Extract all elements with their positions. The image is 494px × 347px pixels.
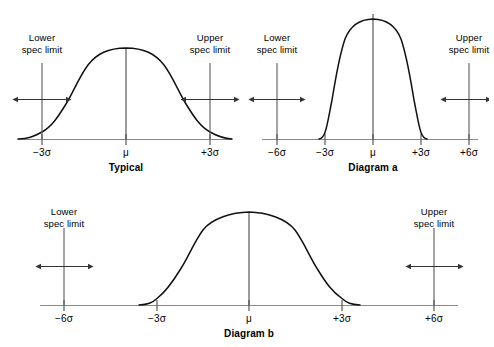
spec-label-line1: Upper	[400, 206, 468, 218]
tick-label-diagram-a-minus6: −6σ	[255, 147, 299, 158]
tick-label-typical-mu: μ	[104, 147, 148, 158]
spec-label-typical-upper: Upper spec limit	[176, 32, 244, 55]
bell-curve-diagram-a	[319, 19, 427, 139]
bell-curve-typical	[18, 48, 232, 139]
spec-label-line1: Upper	[176, 32, 244, 44]
tick-label-diagram-b-minus3: −3σ	[135, 313, 179, 324]
spec-label-line2: spec limit	[435, 44, 494, 56]
tick-label-diagram-a-mu: μ	[351, 147, 395, 158]
spec-label-diagram-b-lower: Lower spec limit	[30, 206, 98, 229]
spec-label-typical-lower: Lower spec limit	[8, 32, 76, 55]
spec-label-line1: Lower	[8, 32, 76, 44]
caption-typical: Typical	[86, 162, 166, 173]
spec-label-line1: Lower	[243, 32, 311, 44]
tick-label-typical-plus3: +3σ	[188, 147, 232, 158]
bell-curve-diagram-b	[139, 212, 360, 305]
spec-label-line1: Upper	[435, 32, 494, 44]
chart-diagram-b	[40, 212, 458, 311]
spec-label-line2: spec limit	[400, 218, 468, 230]
tick-label-diagram-b-minus6: −6σ	[42, 313, 86, 324]
tick-label-diagram-b-plus3: +3σ	[320, 313, 364, 324]
chart-typical	[18, 48, 234, 145]
tick-label-diagram-b-mu: μ	[227, 313, 271, 324]
spec-label-diagram-a-upper: Upper spec limit	[435, 32, 494, 55]
tick-label-diagram-a-plus6: +6σ	[447, 147, 491, 158]
spec-label-line2: spec limit	[8, 44, 76, 56]
spec-label-diagram-b-upper: Upper spec limit	[400, 206, 468, 229]
caption-diagram-a: Diagram a	[330, 162, 416, 173]
spec-label-line1: Lower	[30, 206, 98, 218]
tick-label-diagram-a-minus3: −3σ	[303, 147, 347, 158]
caption-diagram-b: Diagram b	[206, 328, 292, 339]
tick-label-diagram-a-plus3: +3σ	[399, 147, 443, 158]
spec-label-line2: spec limit	[30, 218, 98, 230]
spec-label-diagram-a-lower: Lower spec limit	[243, 32, 311, 55]
spec-label-line2: spec limit	[176, 44, 244, 56]
tick-label-diagram-b-plus6: +6σ	[412, 313, 456, 324]
spec-label-line2: spec limit	[243, 44, 311, 56]
tick-label-typical-minus3: −3σ	[20, 147, 64, 158]
